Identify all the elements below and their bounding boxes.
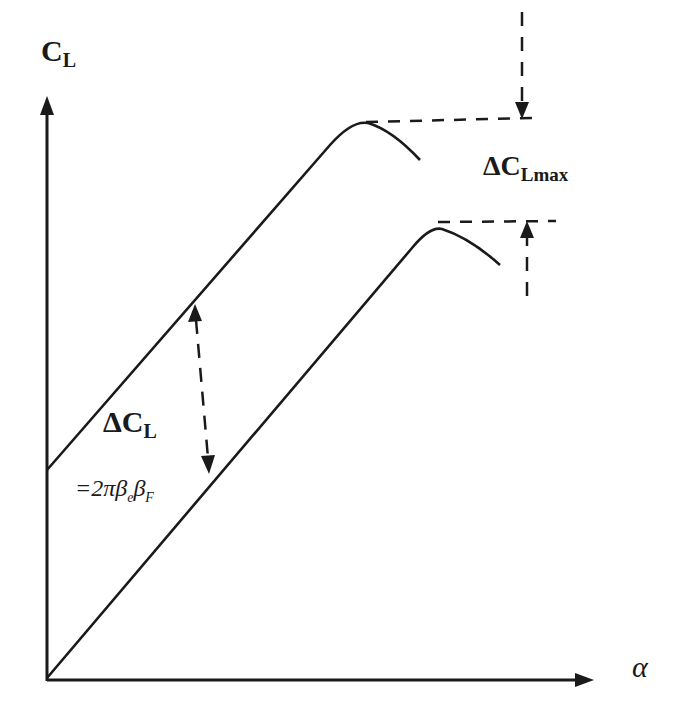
baseline-curve bbox=[47, 229, 500, 678]
y-axis bbox=[40, 96, 54, 681]
delta-cl-label: ΔCL bbox=[103, 405, 157, 439]
x-axis bbox=[47, 673, 594, 687]
delta-cl-marker bbox=[188, 304, 215, 474]
delta-cl-max-label: ΔCLmax bbox=[483, 150, 568, 182]
arrow-up-icon bbox=[520, 221, 534, 238]
x-axis-label: α bbox=[632, 650, 648, 684]
arrow-down-icon bbox=[201, 455, 215, 474]
arrow-down-icon bbox=[515, 102, 529, 119]
x-axis-arrow-icon bbox=[575, 673, 594, 687]
lift-curve-diagram bbox=[0, 0, 684, 715]
y-axis-label: CL bbox=[41, 34, 76, 68]
delta-cl-max-lower-marker bbox=[438, 221, 556, 296]
delta-cl-formula: =2πβeβF bbox=[75, 475, 154, 502]
delta-cl-max-upper-marker bbox=[366, 12, 532, 122]
y-axis-arrow-icon bbox=[40, 96, 54, 115]
